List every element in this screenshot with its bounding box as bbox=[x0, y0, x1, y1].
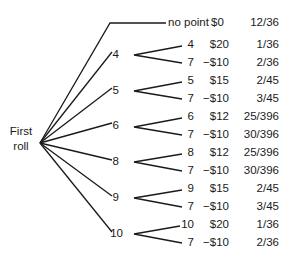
payoff-lose: −$10 bbox=[193, 92, 229, 105]
sub-branch-10 bbox=[134, 226, 182, 243]
payoff-lose: −$10 bbox=[193, 236, 229, 249]
payoff-lose: −$10 bbox=[193, 200, 229, 213]
point-node-4: 4 bbox=[99, 48, 119, 61]
outcome-lose: 7 bbox=[180, 164, 194, 177]
outcome-lose: 7 bbox=[180, 128, 194, 141]
outcome-lose: 7 bbox=[180, 236, 194, 249]
payoff-win: $12 bbox=[193, 146, 229, 159]
sub-branch-9 bbox=[134, 190, 182, 207]
probability-win: 1/36 bbox=[231, 38, 279, 51]
root-label-line1: First bbox=[4, 124, 38, 139]
probability-lose: 2/36 bbox=[231, 236, 279, 249]
point-node-5: 5 bbox=[99, 84, 119, 97]
no-point-payoff: $0 bbox=[211, 16, 224, 29]
probability-win: 25/396 bbox=[231, 110, 279, 123]
root-label: First roll bbox=[4, 124, 38, 154]
outcome-lose: 7 bbox=[180, 92, 194, 105]
probability-lose: 2/36 bbox=[231, 56, 279, 69]
payoff-win: $15 bbox=[193, 74, 229, 87]
point-node-9: 9 bbox=[99, 191, 119, 204]
payoff-win: $12 bbox=[193, 110, 229, 123]
outcome-win: 8 bbox=[180, 146, 194, 159]
payoff-lose: −$10 bbox=[193, 56, 229, 69]
point-node-8: 8 bbox=[99, 155, 119, 168]
point-node-6: 6 bbox=[99, 119, 119, 132]
outcome-win: 6 bbox=[180, 110, 194, 123]
sub-branch-6 bbox=[134, 118, 182, 135]
payoff-lose: −$10 bbox=[193, 164, 229, 177]
probability-win: 2/45 bbox=[231, 74, 279, 87]
sub-branch-5 bbox=[134, 82, 182, 99]
no-point-label: no point bbox=[168, 16, 209, 29]
probability-lose: 3/45 bbox=[231, 200, 279, 213]
sub-branch-8 bbox=[134, 154, 182, 171]
probability-win: 25/396 bbox=[231, 146, 279, 159]
outcome-lose: 7 bbox=[180, 56, 194, 69]
payoff-win: $15 bbox=[193, 182, 229, 195]
payoff-win: $20 bbox=[193, 38, 229, 51]
payoff-win: $20 bbox=[193, 218, 229, 231]
probability-lose: 3/45 bbox=[231, 92, 279, 105]
sub-branch-4 bbox=[134, 46, 182, 63]
outcome-win: 5 bbox=[180, 74, 194, 87]
probability-win: 1/36 bbox=[231, 218, 279, 231]
payoff-lose: −$10 bbox=[193, 128, 229, 141]
probability-lose: 30/396 bbox=[231, 128, 279, 141]
outcome-win: 9 bbox=[180, 182, 194, 195]
point-node-10: 10 bbox=[103, 227, 123, 240]
outcome-win: 10 bbox=[180, 218, 194, 231]
no-point-probability: 12/36 bbox=[231, 16, 279, 29]
probability-lose: 30/396 bbox=[231, 164, 279, 177]
outcome-lose: 7 bbox=[180, 200, 194, 213]
tree-diagram: First roll no point $0 12/36 4 5 6 8 9 1… bbox=[0, 0, 293, 263]
outcome-win: 4 bbox=[180, 38, 194, 51]
root-label-line2: roll bbox=[4, 139, 38, 154]
probability-win: 2/45 bbox=[231, 182, 279, 195]
